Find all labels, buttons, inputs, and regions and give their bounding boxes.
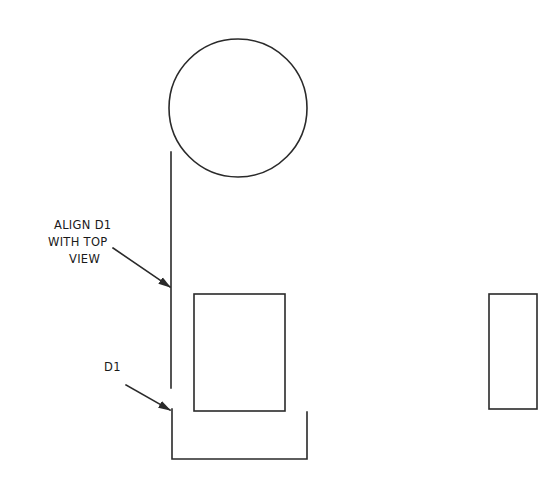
technical-drawing: ALIGN D1 WITH TOP VIEW D1 bbox=[0, 0, 559, 486]
align-note-leader-arrow bbox=[113, 248, 170, 287]
d1-bracket bbox=[172, 409, 307, 459]
align-note-line-1: ALIGN D1 bbox=[54, 218, 111, 232]
side-view-rectangle bbox=[489, 294, 537, 409]
d1-label: D1 bbox=[104, 360, 121, 374]
top-view-circle bbox=[169, 39, 307, 177]
align-note: ALIGN D1 WITH TOP VIEW bbox=[48, 218, 111, 266]
d1-leader-arrow bbox=[126, 385, 170, 410]
align-note-line-2: WITH TOP bbox=[48, 235, 108, 249]
align-note-line-3: VIEW bbox=[69, 252, 100, 266]
front-view-rectangle bbox=[194, 294, 285, 411]
